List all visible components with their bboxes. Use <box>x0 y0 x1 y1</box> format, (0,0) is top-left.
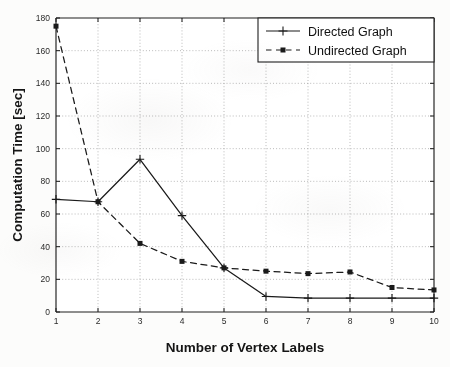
chart-legend[interactable]: Directed Graph Undirected Graph <box>258 18 434 62</box>
y-tick-label: 120 <box>36 111 50 121</box>
y-tick-label: 20 <box>41 274 51 284</box>
x-axis-title: Number of Vertex Labels <box>166 340 324 355</box>
x-tick-label: 3 <box>138 316 143 326</box>
data-point-marker <box>264 269 269 274</box>
y-tick-label: 160 <box>36 46 50 56</box>
data-point-marker <box>390 285 395 290</box>
legend-label-directed: Directed Graph <box>308 25 393 39</box>
x-tick-label: 5 <box>222 316 227 326</box>
y-tick-labels: 020406080100120140160180 <box>36 13 50 317</box>
data-point-marker <box>306 271 311 276</box>
data-point-marker <box>348 269 353 274</box>
data-point-marker <box>180 259 185 264</box>
x-tick-label: 2 <box>96 316 101 326</box>
data-point-marker <box>432 287 437 292</box>
y-tick-label: 140 <box>36 78 50 88</box>
x-tick-label: 4 <box>180 316 185 326</box>
data-point-marker <box>96 199 101 204</box>
data-point-marker <box>222 265 227 270</box>
legend-label-undirected: Undirected Graph <box>308 44 407 58</box>
x-tick-label: 1 <box>54 316 59 326</box>
y-tick-label: 40 <box>41 242 51 252</box>
y-tick-label: 0 <box>45 307 50 317</box>
data-point-marker <box>54 24 59 29</box>
x-tick-label: 6 <box>264 316 269 326</box>
x-tick-labels: 12345678910 <box>54 316 439 326</box>
x-tick-label: 8 <box>348 316 353 326</box>
x-tick-label: 9 <box>390 316 395 326</box>
y-tick-label: 180 <box>36 13 50 23</box>
data-point-marker <box>138 241 143 246</box>
y-axis-title: Computation Time [sec] <box>10 88 25 242</box>
y-tick-label: 100 <box>36 144 50 154</box>
x-tick-label: 10 <box>429 316 439 326</box>
x-tick-label: 7 <box>306 316 311 326</box>
y-tick-label: 60 <box>41 209 51 219</box>
y-tick-label: 80 <box>41 176 51 186</box>
figure-canvas: 020406080100120140160180 12345678910 Num… <box>0 0 450 367</box>
chart-svg: 020406080100120140160180 12345678910 Num… <box>0 0 450 367</box>
